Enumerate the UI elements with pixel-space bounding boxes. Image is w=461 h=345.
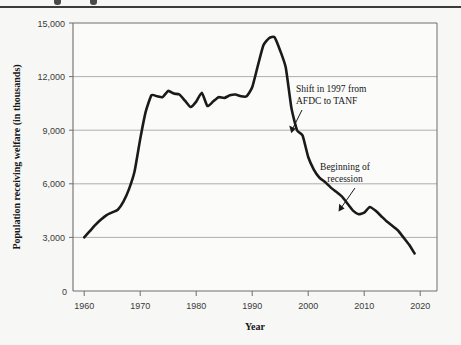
y-tick-label-15000: 15,000 — [37, 19, 65, 29]
annotation-recession-line1: Beginning of — [320, 162, 371, 172]
x-tick-label-2020: 2020 — [410, 301, 430, 311]
x-tick-marks — [84, 291, 420, 296]
plot-area-background — [73, 23, 437, 291]
x-tick-label-1990: 1990 — [242, 301, 262, 311]
y-tick-marks — [69, 23, 73, 237]
x-tick-label-1970: 1970 — [130, 301, 150, 311]
x-tick-label-1960: 1960 — [74, 301, 94, 311]
annotation-afdc-tanf-line2: AFDC to TANF — [296, 96, 357, 106]
annotation-recession-line2: recession — [327, 174, 363, 184]
chart-figure: 15,000 12,000 9,000 6,000 3,000 0 1960 1… — [0, 0, 461, 345]
y-tick-label-12000: 12,000 — [37, 72, 65, 82]
y-tick-label-0: 0 — [62, 287, 67, 297]
y-tick-label-9000: 9,000 — [42, 126, 65, 136]
annotation-afdc-tanf-line1: Shift in 1997 from — [296, 84, 367, 94]
y-tick-label-3000: 3,000 — [42, 233, 65, 243]
x-tick-label-2010: 2010 — [354, 301, 374, 311]
x-tick-label-1980: 1980 — [186, 301, 206, 311]
y-tick-label-6000: 6,000 — [42, 179, 65, 189]
x-tick-label-2000: 2000 — [298, 301, 318, 311]
line-chart: 15,000 12,000 9,000 6,000 3,000 0 1960 1… — [0, 0, 461, 345]
x-axis-title: Year — [245, 321, 266, 332]
y-axis-title: Population receiving welfare (in thousan… — [11, 64, 23, 249]
